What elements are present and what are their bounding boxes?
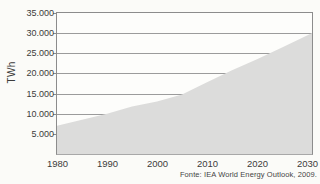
y-tick-label: 5.000: [13, 129, 54, 139]
y-tick-label: 10.000: [13, 109, 54, 119]
chart-figure: TWh 5.00010.00015.00020.00025.00030.0003…: [0, 0, 320, 184]
y-tick-label: 20.000: [13, 68, 54, 78]
source-note: Fonte: IEA World Energy Outlook, 2009.: [180, 170, 317, 179]
y-tick-label: 30.000: [13, 28, 54, 38]
x-tick-label: 2020: [241, 158, 275, 169]
x-tick-label: 1980: [41, 158, 75, 169]
x-tick-label: 2030: [291, 158, 320, 169]
y-tick-label: 25.000: [13, 48, 54, 58]
x-tick-label: 2000: [141, 158, 175, 169]
area-series: [57, 33, 312, 154]
plot-area: [56, 12, 313, 155]
x-tick-label: 2010: [191, 158, 225, 169]
x-tick-label: 1990: [91, 158, 125, 169]
y-tick-label: 15.000: [13, 89, 54, 99]
plot-svg: [57, 13, 312, 154]
y-tick-label: 35.000: [13, 8, 54, 18]
